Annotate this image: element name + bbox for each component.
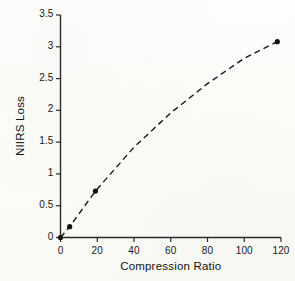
y-tick-label: 3 bbox=[48, 40, 54, 51]
trend-line-dashed bbox=[61, 42, 278, 238]
y-axis-title: NIIRS Loss bbox=[14, 96, 26, 156]
x-tick-label: 20 bbox=[92, 245, 103, 256]
x-tick-label: 40 bbox=[128, 245, 139, 256]
y-tick-label: 1.5 bbox=[39, 135, 53, 146]
x-tick-label: 0 bbox=[58, 245, 64, 256]
data-point bbox=[93, 188, 98, 193]
y-tick-label: 1 bbox=[48, 167, 54, 178]
y-tick-label: 2.5 bbox=[39, 72, 53, 83]
x-tick-label: 60 bbox=[165, 245, 176, 256]
y-tick-label: 3.5 bbox=[39, 8, 53, 19]
data-point bbox=[58, 235, 63, 240]
data-point bbox=[275, 39, 280, 44]
x-tick-label: 100 bbox=[236, 245, 253, 256]
y-tick-label: 0.5 bbox=[39, 199, 53, 210]
y-tick-label: 2 bbox=[48, 103, 54, 114]
chart-figure: 00.511.522.533.5020406080100120 NIIRS Lo… bbox=[0, 0, 295, 281]
x-tick-label: 80 bbox=[202, 245, 213, 256]
x-tick-label: 120 bbox=[273, 245, 290, 256]
x-axis-title: Compression Ratio bbox=[120, 260, 221, 272]
y-tick-label: 0 bbox=[48, 231, 54, 242]
data-point bbox=[67, 224, 72, 229]
data-point-markers bbox=[58, 39, 280, 240]
